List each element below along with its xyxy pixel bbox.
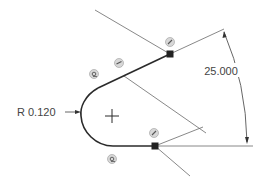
angle-extension-line-upper <box>170 29 224 54</box>
tangent-icon[interactable] <box>90 70 99 79</box>
arrow-head-down-icon <box>245 137 249 144</box>
coincident-icon[interactable] <box>115 59 124 68</box>
upper-reference-line[interactable] <box>95 10 170 54</box>
lower-construction-line[interactable] <box>155 127 203 146</box>
arc-center-cross[interactable] <box>105 109 119 123</box>
construction-lines <box>95 10 253 176</box>
top-endpoint[interactable] <box>167 51 174 58</box>
sketch-canvas[interactable]: 25.000 R 0.120 <box>0 0 265 180</box>
bottom-endpoint[interactable] <box>152 143 159 150</box>
arc-profile[interactable] <box>81 88 113 146</box>
radius-dimension-label[interactable]: R 0.120 <box>17 106 56 118</box>
radius-dimension[interactable]: R 0.120 <box>17 106 81 118</box>
tangent-icon[interactable] <box>108 155 117 164</box>
coincident-icon[interactable] <box>166 38 175 47</box>
angle-dimension[interactable]: 25.000 <box>204 31 249 144</box>
lower-reference-line[interactable] <box>155 146 190 176</box>
coincident-icon[interactable] <box>150 129 159 138</box>
bisector-line[interactable] <box>124 76 206 133</box>
angle-dimension-label[interactable]: 25.000 <box>204 65 238 77</box>
angle-dimension-arc <box>224 32 247 142</box>
